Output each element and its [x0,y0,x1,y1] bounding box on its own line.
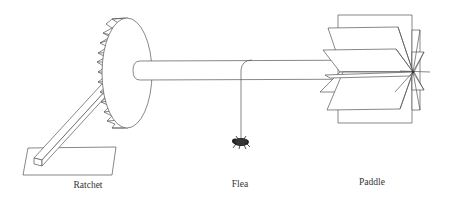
ratchet-label: Ratchet [73,180,102,190]
paddle-label: Paddle [359,177,385,187]
diagram-canvas [0,0,450,201]
flea-label: Flea [232,179,248,189]
ratchet-flea-paddle-diagram: Ratchet Flea Paddle [0,0,450,201]
